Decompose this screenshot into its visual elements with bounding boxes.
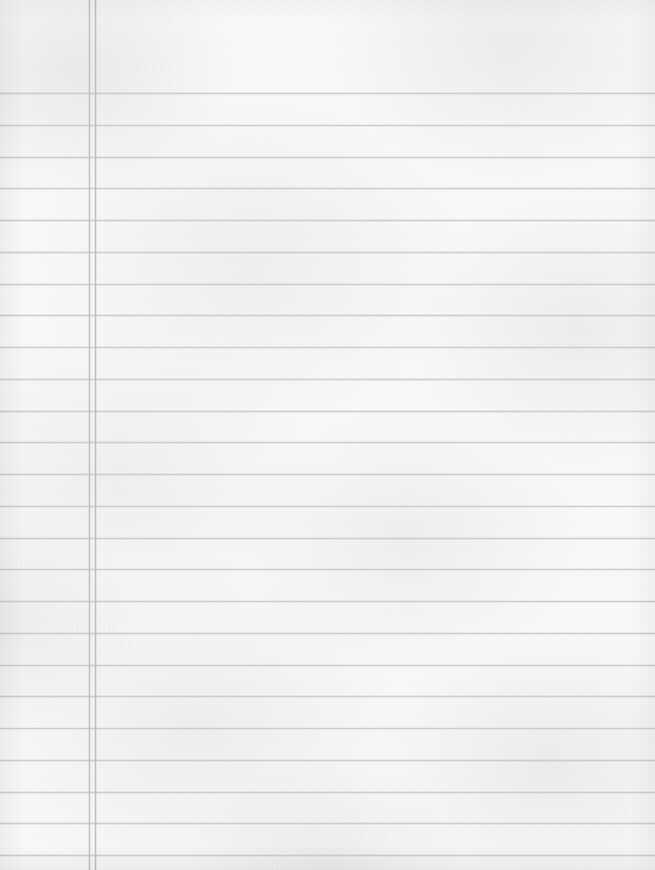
left-margin-gutter <box>0 0 655 870</box>
margin-rule-line <box>95 0 96 870</box>
margin-rule-line <box>89 0 90 870</box>
notebook-page: Scanned blank ruled notebook paper with … <box>0 0 655 870</box>
